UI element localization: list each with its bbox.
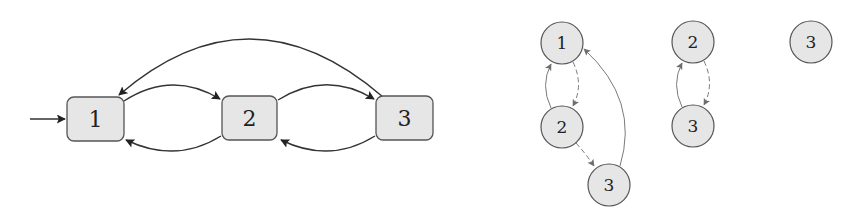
edge-t1-2-to-3 xyxy=(576,143,594,166)
edge-3-to-2 xyxy=(281,136,375,151)
tree-node-2: 2 xyxy=(672,21,714,63)
tree-node-3: 3 xyxy=(588,164,630,206)
edge-2-to-3 xyxy=(278,85,374,100)
tree-3: 3 xyxy=(790,21,832,63)
state-label: 2 xyxy=(243,106,257,131)
automaton: 1 2 3 xyxy=(30,39,433,151)
state-1: 1 xyxy=(67,97,124,141)
edge-t1-3-to-1 xyxy=(584,49,625,166)
node-label: 2 xyxy=(557,117,568,137)
edge-t2-2-to-3 xyxy=(704,61,710,105)
node-label: 3 xyxy=(688,116,699,136)
state-label: 3 xyxy=(398,106,412,131)
edge-2-to-1 xyxy=(126,136,221,151)
node-label: 3 xyxy=(806,32,817,52)
tree-node-3: 3 xyxy=(672,105,714,147)
edge-t2-3-to-2 xyxy=(677,63,683,107)
edge-t1-1-to-2 xyxy=(573,62,579,106)
node-label: 1 xyxy=(557,33,568,53)
state-label: 1 xyxy=(89,107,103,132)
tree-1: 1 2 3 xyxy=(541,22,630,206)
tree-node-2: 2 xyxy=(541,106,583,148)
tree-2: 2 3 xyxy=(672,21,714,147)
state-2: 2 xyxy=(222,96,277,140)
diagram-canvas: 1 2 3 1 2 3 2 xyxy=(0,0,863,217)
edge-1-to-2 xyxy=(124,85,220,101)
edge-t1-2-to-1 xyxy=(546,64,552,108)
tree-node-1: 1 xyxy=(541,22,583,64)
node-label: 2 xyxy=(688,32,699,52)
tree-node-3: 3 xyxy=(790,21,832,63)
node-label: 3 xyxy=(604,175,615,195)
state-3: 3 xyxy=(376,96,433,140)
edge-3-to-1 xyxy=(119,39,383,97)
